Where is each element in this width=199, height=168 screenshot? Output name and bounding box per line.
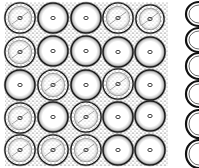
fiber-cell (135, 4, 165, 34)
fiber-cross-section-figure (0, 0, 199, 168)
fiber-cell (102, 101, 134, 133)
fiber-cell (102, 36, 134, 68)
fiber-cell (102, 68, 134, 100)
fiber-cell (37, 2, 69, 34)
fiber-cell (70, 101, 102, 133)
fiber-cell (4, 36, 36, 68)
fiber-cell (37, 69, 69, 101)
fiber-cell (102, 2, 134, 34)
fiber-cell (4, 2, 36, 34)
fiber-cell (4, 102, 36, 134)
fiber-cell (70, 2, 102, 34)
fiber-cell (70, 69, 102, 101)
fiber-grid (4, 2, 166, 166)
side-ring (186, 110, 199, 138)
main-panel (4, 2, 168, 166)
fiber-cell (134, 100, 166, 132)
fiber-cell (4, 69, 36, 101)
fiber-cell (102, 134, 134, 166)
fiber-cell (70, 134, 102, 166)
fiber-cell (134, 36, 166, 68)
side-ring (186, 53, 199, 79)
side-ring (186, 28, 199, 52)
side-view-rings (186, 2, 199, 168)
side-ring (186, 140, 199, 168)
fiber-cell (134, 134, 166, 166)
fiber-cell (37, 101, 69, 133)
fiber-cell (37, 35, 69, 67)
side-panel (186, 2, 199, 168)
fiber-cell (70, 35, 102, 67)
fiber-cell (134, 69, 166, 101)
side-ring (186, 81, 199, 107)
fiber-cell (4, 134, 36, 166)
side-ring (186, 2, 199, 26)
fiber-cell (37, 134, 69, 166)
